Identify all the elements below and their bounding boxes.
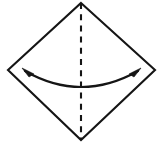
diagram-canvas: Origami fold step diagram A square sheet… [0, 0, 162, 147]
origami-fold-diagram: Origami fold step diagram A square sheet… [0, 0, 162, 147]
